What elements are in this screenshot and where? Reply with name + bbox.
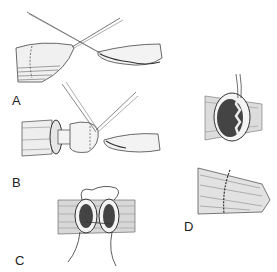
surgical-illustration: A B C D <box>0 0 277 272</box>
panel-label-c: C <box>15 254 24 267</box>
panel-label-d: D <box>184 220 193 233</box>
panel-d-drawing <box>198 74 270 214</box>
panel-b-drawing <box>22 82 160 156</box>
panel-c-drawing <box>58 186 135 266</box>
panel-label-a: A <box>12 94 21 107</box>
panel-label-b: B <box>12 176 21 189</box>
illustration-drawing <box>0 0 277 272</box>
panel-a-drawing <box>16 12 162 82</box>
